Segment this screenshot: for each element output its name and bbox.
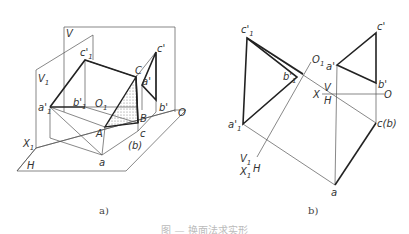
label-c1p: c'1 [80,47,93,61]
label-x1-b: X1 [239,166,251,180]
label-bp: b' [159,102,168,113]
figure-caption: 图 — 换面法求实形 [0,222,409,234]
label-o-b: O [384,89,392,100]
label-O: O [178,107,186,118]
figure-b: c'1 b'1 a'1 O1 a' c' b' X V H O c(b) a V… [228,21,397,216]
caption-a: a) [99,205,109,216]
label-ap-b: a' [326,61,335,72]
caption-b: b) [308,205,318,216]
label-x1: X1 [22,138,34,152]
h-projection-line [335,123,376,185]
label-a1p-b: a'1 [228,119,241,133]
label-c: c [140,128,146,139]
label-o1-b: O1 [312,54,324,68]
label-v: V [66,28,74,39]
label-o1: O1 [95,98,107,112]
triangle-abc [105,77,138,127]
label-v1-b: V1 [240,153,251,167]
label-ap: a' [142,76,151,87]
label-b-paren: (b) [128,140,142,151]
label-x-b: X [312,89,321,100]
label-cp-b: c' [377,21,385,32]
label-C: C [135,65,142,76]
label-B: B [140,113,147,124]
label-c1p-b: c'1 [241,24,254,38]
label-H: H [27,160,35,171]
label-h2-b: H [253,163,261,174]
label-a-b: a [331,187,337,198]
label-cb: c(b) [377,118,397,129]
label-b1p: b'1 [73,97,87,111]
label-A: A [95,128,103,139]
label-v1: V1 [38,73,49,87]
diagram-canvas: V V1 c'1 a'1 b'1 O1 C a' c' b' O B A c (… [0,0,409,234]
label-v-b: V [324,82,332,93]
triangle-v-projection-b [337,33,376,83]
label-a1p: a'1 [38,102,51,116]
label-cp: c' [157,43,165,54]
label-h-b: H [324,95,332,106]
figure-a: V V1 c'1 a'1 b'1 O1 C a' c' b' O B A c (… [17,27,186,216]
label-a: a [99,157,105,168]
